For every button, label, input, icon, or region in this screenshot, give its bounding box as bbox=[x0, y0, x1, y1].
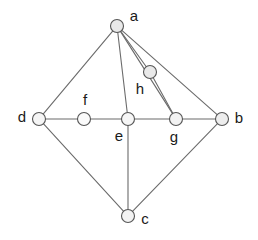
graph-svg: abcdefgh bbox=[0, 0, 258, 240]
edge-a-b bbox=[122, 30, 218, 115]
graph-node-b[interactable] bbox=[216, 113, 229, 126]
graph-node-c[interactable] bbox=[122, 210, 135, 223]
node-label-g: g bbox=[170, 128, 178, 145]
edge-a-e bbox=[118, 32, 128, 113]
node-label-d: d bbox=[18, 108, 26, 125]
node-label-a: a bbox=[130, 7, 139, 24]
graph-node-g[interactable] bbox=[170, 113, 183, 126]
graph-node-e[interactable] bbox=[122, 113, 135, 126]
edge-h-g bbox=[153, 77, 173, 113]
node-label-h: h bbox=[136, 80, 144, 97]
node-label-e: e bbox=[115, 127, 123, 144]
edge-a-d bbox=[43, 31, 113, 115]
graph-node-f[interactable] bbox=[78, 113, 91, 126]
graph-node-d[interactable] bbox=[33, 113, 46, 126]
graph-node-h[interactable] bbox=[144, 66, 157, 79]
node-label-c: c bbox=[141, 210, 149, 227]
node-label-f: f bbox=[83, 91, 88, 108]
graph-diagram: abcdefgh bbox=[0, 0, 258, 240]
edge-d-c bbox=[43, 123, 124, 211]
node-label-b: b bbox=[235, 109, 243, 126]
graph-node-a[interactable] bbox=[111, 20, 124, 33]
node-layer bbox=[33, 20, 229, 223]
